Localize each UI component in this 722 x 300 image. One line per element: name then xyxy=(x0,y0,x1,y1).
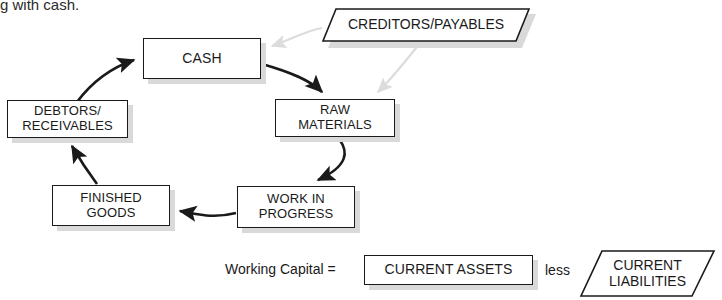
node-body: CASH xyxy=(143,38,261,79)
arrow-work-in-progress-to-finished-goods xyxy=(180,211,236,216)
node-label: RAW MATERIALS xyxy=(298,103,372,132)
diagram-canvas: g with cash. xyxy=(0,0,722,300)
node-work-in-progress[interactable]: WORK IN PROGRESS xyxy=(237,186,355,228)
node-label: CREDITORS/PAYABLES xyxy=(348,17,504,33)
node-current-assets[interactable]: CURRENT ASSETS xyxy=(364,255,533,285)
arrow-debtors-to-cash xyxy=(77,60,134,102)
node-cash[interactable]: CASH xyxy=(143,38,261,79)
node-raw-materials[interactable]: RAW MATERIALS xyxy=(275,99,395,137)
arrow-cash-to-raw-materials xyxy=(262,64,322,92)
node-body: RAW MATERIALS xyxy=(275,99,395,137)
node-body: WORK IN PROGRESS xyxy=(237,186,355,228)
node-body: DEBTORS/ RECEIVABLES xyxy=(7,100,128,138)
node-debtors-receivables[interactable]: DEBTORS/ RECEIVABLES xyxy=(7,100,128,138)
node-creditors-payables[interactable]: CREDITORS/PAYABLES xyxy=(322,8,530,42)
working-capital-equation-label: Working Capital = xyxy=(225,261,336,277)
less-operator-label: less xyxy=(545,262,570,278)
node-body: CREDITORS/PAYABLES xyxy=(322,8,530,42)
arrow-finished-goods-to-debtors xyxy=(72,146,97,184)
arrow-raw-materials-to-work-in-progress xyxy=(318,139,345,180)
node-body: CURRENT ASSETS xyxy=(364,255,533,285)
node-label: FINISHED GOODS xyxy=(80,191,141,220)
node-finished-goods[interactable]: FINISHED GOODS xyxy=(52,185,170,226)
node-label: WORK IN PROGRESS xyxy=(259,192,333,221)
node-label: CURRENT LIABILITIES xyxy=(609,258,686,289)
node-label: CURRENT ASSETS xyxy=(385,262,513,278)
node-label: DEBTORS/ RECEIVABLES xyxy=(22,104,112,133)
node-current-liabilities[interactable]: CURRENT LIABILITIES xyxy=(580,250,715,297)
node-body: FINISHED GOODS xyxy=(52,185,170,226)
node-label: CASH xyxy=(182,51,221,67)
arrow-creditors-to-cash xyxy=(272,28,322,46)
arrow-creditors-to-raw-materials xyxy=(378,43,420,92)
node-body: CURRENT LIABILITIES xyxy=(580,250,715,297)
